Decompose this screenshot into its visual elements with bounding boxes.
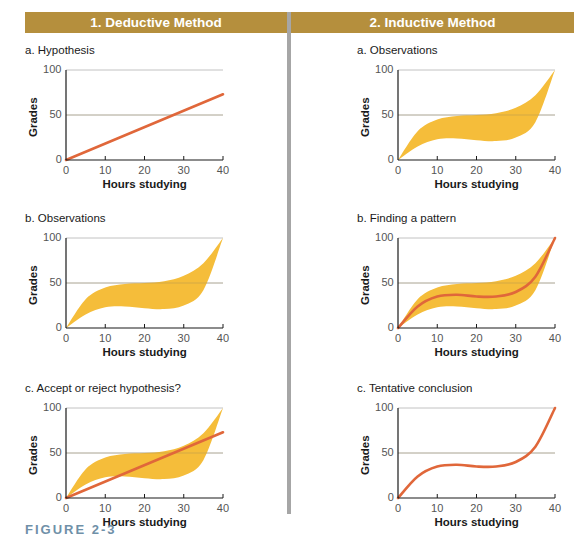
hypothesis-line: [66, 94, 223, 160]
x-tick-label: 0: [63, 332, 69, 344]
observation-band: [66, 408, 223, 498]
hypothesis-line: [66, 432, 223, 498]
x-tick-label: 20: [138, 502, 150, 514]
x-tick-label: 10: [99, 502, 111, 514]
x-tick-label: 20: [470, 332, 482, 344]
y-tick-label: 50: [381, 108, 393, 120]
y-tick-label: 0: [56, 491, 62, 503]
x-tick-label: 10: [99, 332, 111, 344]
panel-title: c. Tentative conclusion: [357, 382, 473, 394]
pattern-line: [398, 238, 555, 328]
y-axis-label: Grades: [27, 435, 39, 475]
x-tick-label: 30: [178, 164, 190, 176]
y-tick-label: 100: [43, 63, 61, 75]
x-tick-label: 10: [431, 332, 443, 344]
x-tick-label: 40: [549, 164, 561, 176]
x-tick-label: 20: [138, 164, 150, 176]
x-axis-label: Hours studying: [103, 178, 187, 190]
x-tick-label: 0: [63, 502, 69, 514]
panel-title: a. Hypothesis: [25, 44, 95, 56]
x-tick-label: 20: [470, 164, 482, 176]
x-tick-label: 40: [217, 332, 229, 344]
x-tick-label: 20: [138, 332, 150, 344]
y-tick-label: 100: [43, 401, 61, 413]
y-axis-label: Grades: [359, 265, 371, 305]
x-tick-label: 30: [510, 502, 522, 514]
y-axis-label: Grades: [27, 97, 39, 137]
y-tick-label: 100: [375, 63, 393, 75]
observation-band: [398, 70, 555, 160]
x-tick-label: 30: [178, 332, 190, 344]
x-tick-label: 40: [217, 502, 229, 514]
panel-title: c. Accept or reject hypothesis?: [25, 382, 181, 394]
x-tick-label: 10: [431, 502, 443, 514]
panel-title: a. Observations: [357, 44, 438, 56]
y-tick-label: 50: [49, 446, 61, 458]
x-tick-label: 0: [395, 164, 401, 176]
x-tick-label: 20: [470, 502, 482, 514]
x-tick-label: 10: [431, 164, 443, 176]
x-tick-label: 40: [549, 502, 561, 514]
x-tick-label: 30: [510, 164, 522, 176]
y-tick-label: 100: [375, 231, 393, 243]
y-tick-label: 0: [56, 153, 62, 165]
x-tick-label: 30: [178, 502, 190, 514]
x-tick-label: 40: [217, 164, 229, 176]
y-tick-label: 50: [381, 446, 393, 458]
y-tick-label: 0: [388, 491, 394, 503]
x-tick-label: 10: [99, 164, 111, 176]
x-tick-label: 40: [549, 332, 561, 344]
panel-title: b. Observations: [25, 212, 106, 224]
y-tick-label: 100: [43, 231, 61, 243]
header-inductive-method: 2. Inductive Method: [291, 12, 574, 33]
conclusion-line: [398, 408, 555, 498]
x-axis-label: Hours studying: [103, 346, 187, 358]
panel-title: b. Finding a pattern: [357, 212, 456, 224]
x-axis-label: Hours studying: [435, 346, 519, 358]
y-tick-label: 50: [381, 276, 393, 288]
observation-band: [398, 238, 555, 328]
y-tick-label: 100: [375, 401, 393, 413]
y-tick-label: 0: [388, 321, 394, 333]
y-tick-label: 50: [49, 276, 61, 288]
observation-band: [66, 238, 223, 328]
x-tick-label: 30: [510, 332, 522, 344]
column-divider: [287, 12, 291, 514]
x-tick-label: 0: [63, 164, 69, 176]
y-tick-label: 0: [388, 153, 394, 165]
y-axis-label: Grades: [359, 435, 371, 475]
y-axis-label: Grades: [359, 97, 371, 137]
y-axis-label: Grades: [27, 265, 39, 305]
x-tick-label: 0: [395, 502, 401, 514]
x-axis-label: Hours studying: [435, 178, 519, 190]
figure-label: FIGURE 2-3: [25, 522, 117, 537]
x-axis-label: Hours studying: [435, 516, 519, 528]
header-deductive-method: 1. Deductive Method: [25, 12, 287, 33]
x-tick-label: 0: [395, 332, 401, 344]
y-tick-label: 0: [56, 321, 62, 333]
y-tick-label: 50: [49, 108, 61, 120]
